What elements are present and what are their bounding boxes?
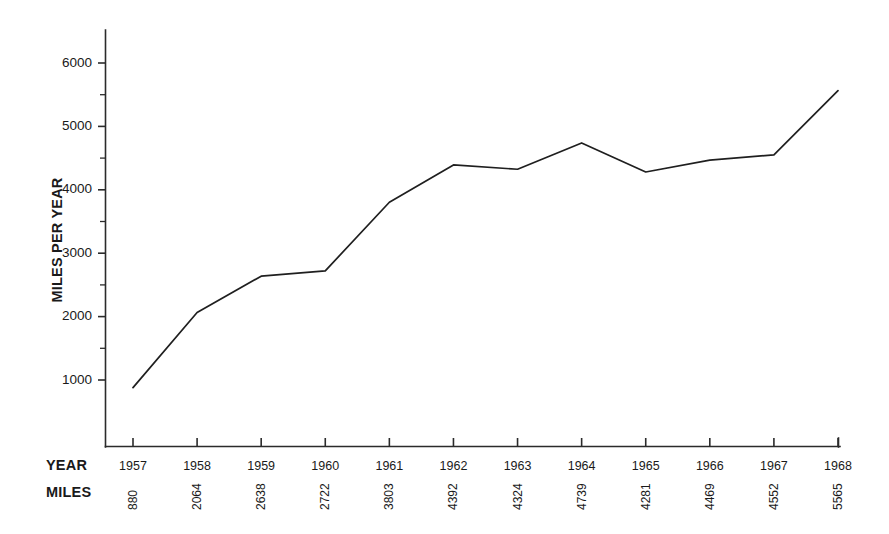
y-tick-label: 2000 <box>62 308 92 323</box>
x-tick-label: 1959 <box>247 459 275 473</box>
miles-value-label: 4739 <box>575 483 589 510</box>
miles-value-label: 880 <box>126 490 140 510</box>
chart-background <box>0 0 889 534</box>
miles-value-label: 2064 <box>190 483 204 510</box>
x-tick-label: 1963 <box>504 459 532 473</box>
y-axis-title: MILES PER YEAR <box>49 177 65 302</box>
y-tick-label: 3000 <box>62 245 92 260</box>
x-tick-label: 1957 <box>119 459 147 473</box>
x-tick-label: 1967 <box>760 459 788 473</box>
year-row-label: YEAR <box>46 457 87 473</box>
x-tick-label: 1968 <box>824 459 852 473</box>
x-tick-label: 1964 <box>568 459 596 473</box>
y-tick-label: 1000 <box>62 372 92 387</box>
miles-value-label: 2638 <box>254 483 268 510</box>
x-tick-label: 1965 <box>632 459 660 473</box>
x-tick-label: 1960 <box>311 459 339 473</box>
miles-value-label: 4392 <box>446 483 460 510</box>
miles-value-label: 4281 <box>639 483 653 510</box>
x-tick-label: 1961 <box>375 459 403 473</box>
miles-value-label: 5565 <box>831 483 845 510</box>
miles-value-label: 4469 <box>703 483 717 510</box>
y-tick-label: 4000 <box>62 181 92 196</box>
miles-value-label: 2722 <box>318 483 332 510</box>
miles-row-label: MILES <box>46 484 91 500</box>
miles-value-label: 4552 <box>767 483 781 510</box>
x-tick-label: 1966 <box>696 459 724 473</box>
chart-figure: 100020003000400050006000 195719581959196… <box>0 0 889 534</box>
x-tick-label: 1958 <box>183 459 211 473</box>
y-tick-label: 5000 <box>62 118 92 133</box>
miles-value-label: 4324 <box>511 483 525 510</box>
x-tick-label: 1962 <box>440 459 468 473</box>
miles-value-label: 3803 <box>382 483 396 510</box>
line-chart-canvas: 100020003000400050006000 195719581959196… <box>0 0 889 534</box>
y-tick-label: 6000 <box>62 55 92 70</box>
